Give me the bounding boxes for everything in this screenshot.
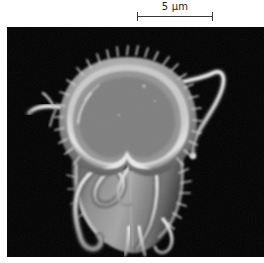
scale-bar-tick-right xyxy=(212,12,213,21)
sem-figure: 5 µm xyxy=(0,0,264,263)
scale-bar: 5 µm xyxy=(136,1,214,25)
scale-bar-label: 5 µm xyxy=(136,1,214,13)
giardia-trophozoite-image xyxy=(7,27,264,257)
film-grain xyxy=(7,27,264,257)
micrograph-panel xyxy=(7,27,264,257)
scale-bar-line xyxy=(137,16,213,17)
scale-bar-tick-left xyxy=(137,12,138,21)
